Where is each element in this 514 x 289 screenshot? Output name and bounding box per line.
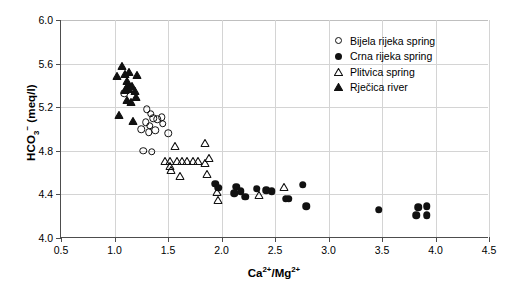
x-axis-title: Ca2+/Mg2+ xyxy=(60,265,488,279)
legend-circle-filled-icon xyxy=(330,53,346,60)
data-point xyxy=(202,164,211,172)
x-tick xyxy=(168,237,169,242)
x-tick xyxy=(436,237,437,242)
y-tick-label: 5.2 xyxy=(13,101,53,113)
scatter-chart-figure: HCO3− (meq/l) Ca2+/Mg2+ 4.04.44.85.25.66… xyxy=(0,0,514,289)
data-point xyxy=(121,64,130,72)
data-point xyxy=(131,87,140,95)
data-point xyxy=(112,66,121,74)
x-tick xyxy=(382,237,383,242)
data-point xyxy=(253,185,261,193)
data-point xyxy=(154,115,162,123)
data-point xyxy=(123,90,132,98)
x-tick-label: 1.5 xyxy=(148,244,188,256)
data-point xyxy=(254,185,263,193)
legend-item[interactable]: Crna rijeka spring xyxy=(330,49,435,65)
data-point xyxy=(123,78,132,86)
x-tick-label: 0.5 xyxy=(41,244,81,256)
data-point xyxy=(130,81,139,89)
data-point xyxy=(177,151,186,159)
data-point xyxy=(121,80,130,88)
data-point xyxy=(166,156,175,164)
y-tick-label: 4.0 xyxy=(13,232,53,244)
data-point xyxy=(233,183,241,191)
legend-item-label: Bijela rijeka spring xyxy=(350,35,435,47)
data-point xyxy=(166,151,175,159)
y-tick xyxy=(56,151,61,152)
data-point xyxy=(282,195,290,203)
gridline-vertical xyxy=(436,20,437,237)
x-tick xyxy=(115,237,116,242)
data-point xyxy=(204,148,213,156)
legend-item[interactable]: Bijela rijeka spring xyxy=(330,33,435,49)
data-point xyxy=(159,120,167,128)
x-tick-label: 3.5 xyxy=(362,244,402,256)
data-point xyxy=(171,136,180,144)
y-tick-label: 4.4 xyxy=(13,188,53,200)
legend-item-label: Plitvica spring xyxy=(350,66,415,78)
data-point xyxy=(415,204,423,212)
legend-triangle-open-icon xyxy=(330,68,346,76)
gridline-vertical xyxy=(489,20,490,237)
data-point xyxy=(120,89,128,97)
y-tick-label: 6.0 xyxy=(13,14,53,26)
data-point xyxy=(132,65,141,73)
legend-circle-open-icon xyxy=(330,37,346,44)
x-tick xyxy=(275,237,276,242)
data-point xyxy=(175,166,184,174)
data-point xyxy=(138,125,146,133)
x-tick-label: 4.0 xyxy=(416,244,456,256)
data-point xyxy=(158,113,166,121)
data-point xyxy=(151,126,159,134)
x-tick xyxy=(489,237,490,242)
legend-item[interactable]: Rječica river xyxy=(330,80,435,96)
data-point xyxy=(172,151,181,159)
y-tick-label: 4.8 xyxy=(13,145,53,157)
chart-legend: Bijela rijeka springCrna rijeka springPl… xyxy=(330,33,435,95)
y-tick xyxy=(56,20,61,21)
gridline-vertical xyxy=(222,20,223,237)
data-point xyxy=(188,151,197,159)
data-point xyxy=(302,203,310,211)
data-point xyxy=(142,119,150,127)
data-point xyxy=(423,211,431,219)
data-point xyxy=(201,133,210,141)
data-point xyxy=(279,177,288,185)
legend-triangle-filled-icon xyxy=(330,83,346,91)
data-point xyxy=(146,122,154,130)
data-point xyxy=(213,182,222,190)
x-tick-label: 1.0 xyxy=(95,244,135,256)
data-point xyxy=(193,151,202,159)
x-tick-label: 4.5 xyxy=(469,244,509,256)
x-tick-label: 2.0 xyxy=(202,244,242,256)
data-point xyxy=(211,180,219,188)
legend-item-label: Rječica river xyxy=(350,81,408,93)
x-tick xyxy=(329,237,330,242)
data-point xyxy=(125,79,134,87)
gridline-vertical xyxy=(168,20,169,237)
y-tick xyxy=(56,194,61,195)
data-point xyxy=(147,110,155,118)
data-point xyxy=(123,71,132,79)
gridline-vertical xyxy=(115,20,116,237)
x-tick-label: 2.5 xyxy=(255,244,295,256)
data-point xyxy=(127,76,136,84)
x-tick-label: 3.0 xyxy=(309,244,349,256)
data-point xyxy=(231,190,239,198)
legend-item[interactable]: Plitvica spring xyxy=(330,64,435,80)
data-point xyxy=(412,211,420,219)
data-point xyxy=(423,203,431,211)
data-point xyxy=(149,114,157,122)
data-point xyxy=(299,181,307,189)
y-tick xyxy=(56,64,61,65)
y-tick-label: 5.6 xyxy=(13,58,53,70)
gridline-vertical xyxy=(275,20,276,237)
data-point xyxy=(124,75,133,83)
x-tick xyxy=(222,237,223,242)
data-point xyxy=(148,148,156,156)
data-point xyxy=(183,151,192,159)
y-tick xyxy=(56,107,61,108)
data-point xyxy=(263,186,271,194)
data-point xyxy=(285,195,293,203)
data-point xyxy=(145,129,153,137)
